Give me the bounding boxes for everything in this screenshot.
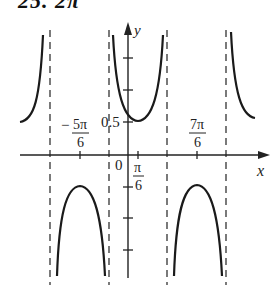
tick-label-pi6-num: π: [134, 160, 141, 175]
tick-label-neg5pi6-num: 5π: [73, 117, 87, 132]
curve-upper-center: [113, 35, 163, 121]
y-half-label: 0.5: [101, 114, 120, 130]
tick-label-7pi6-den: 6: [194, 135, 201, 150]
curve-lower-right: [174, 185, 222, 276]
origin-label: 0: [115, 157, 123, 173]
secant-graph: y x 0 0.5 − 5π 6 7π 6 π 6: [0, 0, 278, 285]
tick-label-pi6-den: 6: [135, 178, 142, 193]
y-axis-label: y: [132, 22, 141, 38]
tick-label-neg5pi6-sign: −: [61, 117, 69, 133]
curve-lower-left: [57, 186, 105, 276]
tick-label-neg5pi6-den: 6: [77, 135, 84, 150]
curve-left-partial: [20, 35, 43, 122]
x-axis-arrow-icon: [258, 151, 270, 159]
y-axis-arrow-icon: [124, 22, 132, 35]
tick-label-7pi6-num: 7π: [190, 117, 204, 132]
x-axis-label: x: [256, 162, 264, 179]
curve-right-partial: [231, 32, 255, 118]
